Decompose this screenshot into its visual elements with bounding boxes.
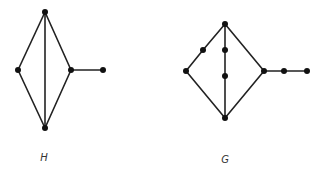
vertex — [100, 67, 106, 73]
vertex — [200, 47, 206, 53]
vertex — [42, 125, 48, 131]
graph-g — [183, 21, 310, 121]
edge — [18, 70, 45, 128]
edge — [186, 71, 225, 118]
vertex — [261, 68, 267, 74]
vertex — [304, 68, 310, 74]
vertex — [68, 67, 74, 73]
edge — [225, 24, 264, 71]
edge — [45, 12, 71, 70]
edge — [225, 71, 264, 118]
vertex — [222, 21, 228, 27]
vertex — [222, 73, 228, 79]
graph-canvas — [0, 0, 327, 176]
edge — [203, 24, 225, 50]
edge — [45, 70, 71, 128]
graph-h — [15, 9, 106, 131]
vertex — [42, 9, 48, 15]
edge — [186, 50, 203, 71]
vertex — [222, 115, 228, 121]
vertex — [183, 68, 189, 74]
vertex — [15, 67, 21, 73]
graph-h-label: H — [40, 152, 48, 163]
graph-g-label: G — [221, 154, 229, 165]
vertex — [281, 68, 287, 74]
vertex — [222, 47, 228, 53]
edge — [18, 12, 45, 70]
